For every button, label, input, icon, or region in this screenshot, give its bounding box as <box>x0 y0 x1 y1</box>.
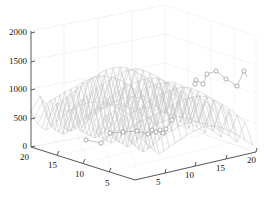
z-tick-label-0: 0 <box>0 142 27 151</box>
x-tick-label-5: 5 <box>156 178 161 187</box>
plot-canvas <box>0 0 267 203</box>
z-tick-label-2000: 2000 <box>0 28 27 37</box>
y-tick-label-10: 10 <box>75 170 84 179</box>
data-marker <box>170 118 174 122</box>
data-marker <box>135 129 139 133</box>
mesh-surface <box>31 67 253 154</box>
x-tick-label-20: 20 <box>247 156 256 165</box>
z-tick-label-500: 500 <box>0 114 27 123</box>
data-marker <box>84 138 88 142</box>
y-axis-ticks <box>57 151 111 172</box>
data-marker <box>194 78 198 82</box>
data-marker <box>242 69 246 73</box>
data-marker <box>193 82 197 86</box>
x-axis-line <box>135 152 256 180</box>
data-marker <box>161 131 165 135</box>
data-marker <box>224 77 228 81</box>
data-marker <box>201 82 205 86</box>
x-tick-label-15: 15 <box>216 164 225 173</box>
data-marker <box>235 84 239 88</box>
data-marker <box>121 130 125 134</box>
z-tick-label-1000: 1000 <box>0 85 27 94</box>
data-marker <box>146 132 150 136</box>
x-axis-ticks <box>165 148 257 173</box>
data-marker <box>150 128 154 132</box>
marker-group-upper <box>193 69 246 88</box>
data-marker <box>205 72 209 76</box>
data-marker <box>214 69 218 73</box>
figure-3d-mesh-plot: 2000 1500 1000 500 0 20 15 10 5 5 10 15 … <box>0 0 267 203</box>
y-tick-label-15: 15 <box>48 161 57 170</box>
data-marker <box>99 141 103 145</box>
data-marker <box>108 131 112 135</box>
data-marker <box>164 127 168 131</box>
z-axis-ticks <box>31 32 35 147</box>
x-tick-label-10: 10 <box>185 171 194 180</box>
y-tick-label-20: 20 <box>20 153 29 162</box>
y-tick-label-5: 5 <box>105 179 110 188</box>
z-tick-label-1500: 1500 <box>0 57 27 66</box>
data-marker <box>154 130 158 134</box>
